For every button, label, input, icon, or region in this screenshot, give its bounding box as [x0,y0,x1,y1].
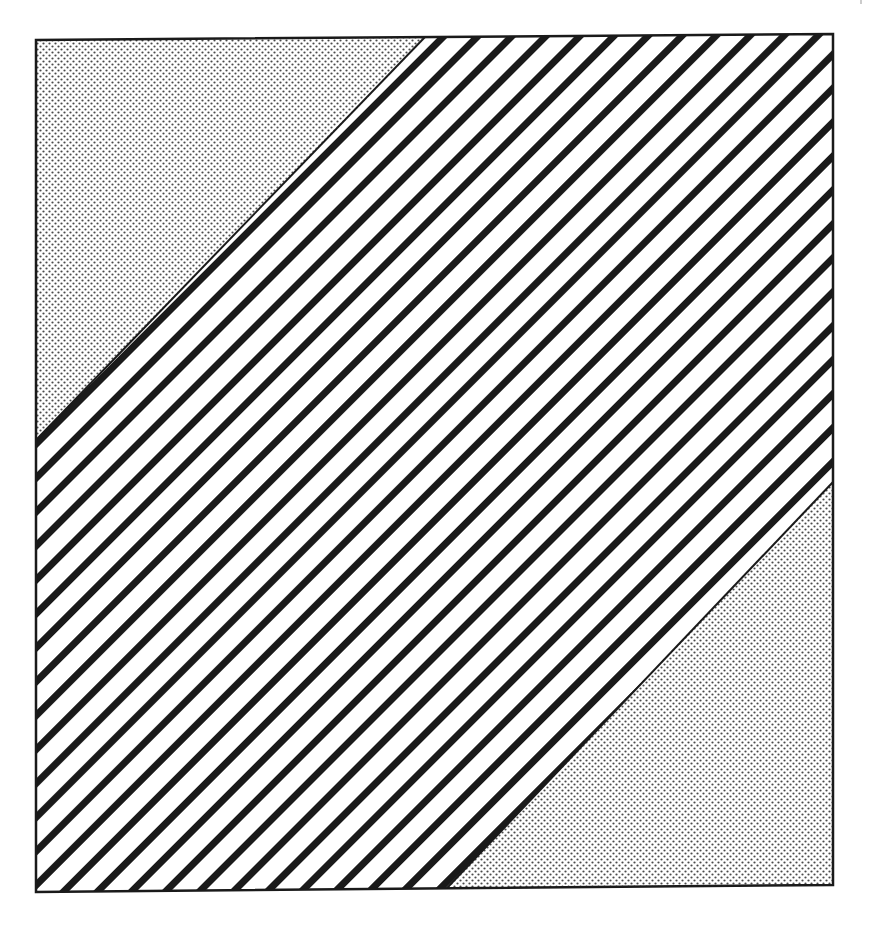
striped-square-diagram [0,0,877,930]
